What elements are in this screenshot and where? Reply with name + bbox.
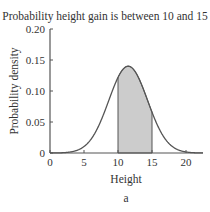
y-tick-label: 0: [40, 147, 46, 159]
x-axis-label: Height: [110, 173, 142, 186]
x-tick-label: 15: [147, 156, 159, 168]
x-tick-label: 0: [47, 156, 53, 168]
chart-caption: a: [123, 192, 128, 204]
y-tick-label: 0.20: [26, 23, 46, 35]
x-tick-label: 5: [81, 156, 87, 168]
x-tick-label: 20: [181, 156, 193, 168]
y-axis-label: Probability density: [8, 47, 21, 134]
x-tick-label: 10: [113, 156, 125, 168]
chart: Probability height gain is between 10 an…: [0, 0, 210, 212]
shaded-area: [118, 66, 152, 153]
y-tick-label: 0.15: [26, 54, 46, 66]
y-tick-label: 0.05: [26, 116, 46, 128]
y-tick-label: 0.10: [26, 85, 46, 97]
chart-title: Probability height gain is between 10 an…: [2, 10, 208, 23]
